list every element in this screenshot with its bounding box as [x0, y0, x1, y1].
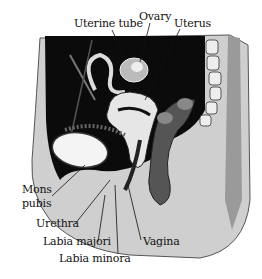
label-vagina: Vagina	[143, 236, 180, 248]
illustration	[0, 0, 262, 279]
label-labia-minora: Labia minora	[59, 253, 131, 265]
label-urethra: Urethra	[36, 218, 79, 230]
label-mons-pubis-line1: Mons	[22, 184, 52, 196]
label-ovary: Ovary	[139, 11, 171, 23]
anatomy-diagram: Uterine tube Ovary Uterus Mons pubis Ure…	[0, 0, 262, 279]
label-labia-majori: Labia majori	[43, 236, 111, 248]
label-mons-pubis-line2: pubis	[22, 198, 51, 210]
label-uterus: Uterus	[174, 18, 211, 30]
label-uterine-tube: Uterine tube	[74, 18, 143, 30]
